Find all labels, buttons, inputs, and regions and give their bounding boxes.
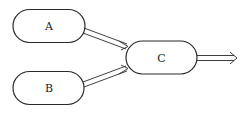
node-b: B xyxy=(13,72,84,105)
edge-c-to-output xyxy=(197,52,237,64)
node-b-label: B xyxy=(45,82,53,95)
edge-b-to-c xyxy=(83,65,128,87)
edge-a-to-c xyxy=(83,28,128,50)
node-a: A xyxy=(13,10,85,43)
flow-diagram: A B C xyxy=(0,0,250,114)
node-a-label: A xyxy=(44,20,54,33)
node-c-label: C xyxy=(157,52,165,65)
node-c: C xyxy=(126,41,197,74)
